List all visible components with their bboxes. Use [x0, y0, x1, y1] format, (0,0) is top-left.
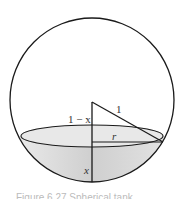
figure-caption: Figure 6.27 Spherical tank	[16, 193, 133, 199]
label-upper-segment: 1 − x	[68, 113, 91, 125]
label-radius: r	[112, 130, 117, 142]
label-hypotenuse: 1	[116, 103, 122, 115]
label-depth: x	[83, 164, 89, 176]
sphere-diagram: 1 1 − x r x	[0, 0, 190, 199]
